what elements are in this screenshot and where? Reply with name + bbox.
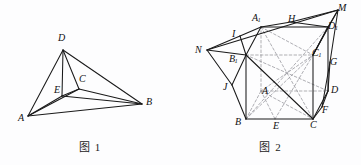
vertex-label-subscript-A1: 1 [258,16,261,23]
edge-D-E [62,50,63,96]
vertex-label-A1: A1 [252,13,261,24]
edge-F-C [313,107,322,119]
vertex-label-E: E [54,85,60,95]
vertex-label-C1: C1 [312,48,321,59]
vertex-label-I: I [232,29,235,39]
dashed-edge-A-C [261,91,313,119]
vertex-label-E: E [273,121,279,131]
vertex-label-D1: D1 [328,21,338,32]
edge-D-B [63,50,142,104]
figure-1-drawing [0,0,180,135]
vertex-label-D: D [331,85,338,95]
vertex-label-A: A [18,113,24,123]
vertex-label-B: B [146,97,152,107]
edge-J-B [232,85,246,119]
vertex-label-C: C [310,120,317,130]
vertex-label-subscript-D1: 1 [335,24,338,31]
vertex-label-F: F [322,105,328,115]
vertex-label-subscript-B1: 1 [235,57,238,64]
figure-2: 图 2 A1B1C1D1BCDAMNHIJEFG [180,0,361,165]
edge-C-B [79,89,142,104]
vertex-label-C: C [79,74,86,84]
vertex-label-J: J [223,82,227,92]
figure-page: 图 1 ABCDE 图 2 A1B1C1D1BCDAMNHIJEFG [0,0,361,165]
vertex-label-B: B [235,117,241,127]
vertex-label-B1: B1 [229,54,238,65]
figure-2-caption: 图 2 [180,138,361,154]
figure-1: 图 1 ABCDE [0,0,180,165]
edge-C-E [62,89,79,96]
vertex-label-D: D [58,33,65,43]
vertex-label-M: M [338,3,346,13]
vertex-label-H: H [288,14,295,24]
vertex-label-subscript-C1: 1 [318,51,321,58]
vertex-label-A: A [262,86,268,96]
vertex-label-N: N [195,45,202,55]
edge-B1-A1 [246,27,261,55]
edge-N-B1 [207,50,246,55]
dashed-edge-E-C1 [275,55,313,119]
dashed-edge-A-C1 [261,55,313,91]
figure-1-caption: 图 1 [0,138,180,154]
edge-E-B [62,96,142,104]
vertex-label-G: G [330,57,337,67]
